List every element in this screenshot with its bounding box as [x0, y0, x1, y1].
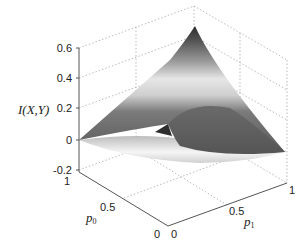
z-tick-0.2: 0.2 [57, 102, 72, 114]
plot-canvas: 0.6 0.4 0.2 0 -0.2 I(X,Y) 1 0.5 0 0 0.5 … [0, 0, 307, 250]
z-tick-0: 0 [66, 134, 72, 146]
p0-axis-label: p0 [85, 210, 97, 226]
p1-tick-0: 0 [171, 228, 177, 240]
surface [79, 26, 285, 163]
p1-tick-0.5: 0.5 [229, 205, 244, 217]
p1-tick-1: 1 [289, 184, 295, 196]
p1-axis-label: p1 [243, 214, 255, 230]
p0-tick-1: 1 [64, 175, 70, 187]
z-tick-0.4: 0.4 [57, 72, 72, 84]
z-axis-label: I(X,Y) [17, 102, 49, 117]
surface-plot: 0.6 0.4 0.2 0 -0.2 I(X,Y) 1 0.5 0 0 0.5 … [0, 0, 307, 250]
z-tick-0.6: 0.6 [57, 42, 72, 54]
p0-tick-0.5: 0.5 [100, 201, 115, 213]
p0-tick-0: 0 [154, 228, 160, 240]
